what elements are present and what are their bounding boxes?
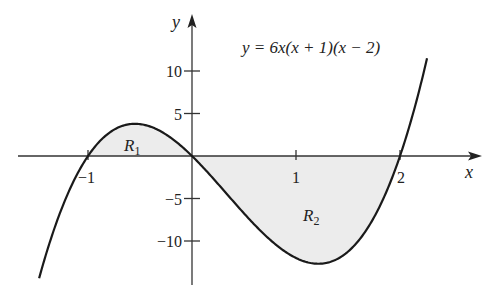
equation-label: y = 6x(x + 1)(x − 2) <box>240 38 381 57</box>
y-tick-label: −10 <box>157 233 182 250</box>
x-tick-label: −1 <box>78 169 95 186</box>
y-axis <box>188 14 197 285</box>
x-tick-label: 1 <box>292 169 300 186</box>
y-tick-label: 5 <box>174 106 182 123</box>
x-tick-label: 2 <box>397 169 405 186</box>
y-tick-label: 10 <box>166 63 182 80</box>
y-axis-label: y <box>170 12 180 32</box>
chart: −112 105−5−10 x y y = 6x(x + 1)(x − 2) R… <box>0 0 487 301</box>
y-tick-label: −5 <box>165 191 182 208</box>
x-axis-label: x <box>464 162 473 182</box>
